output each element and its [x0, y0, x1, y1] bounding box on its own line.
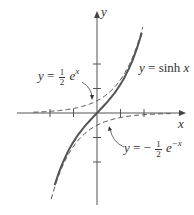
y-axis-label: y — [101, 5, 107, 18]
neg-half-exp-label: y = − 12 e−x — [124, 139, 182, 159]
fraction-one-half: 12 — [155, 140, 162, 159]
arrowhead-icon — [108, 126, 112, 131]
x-axis-label: x — [178, 117, 184, 130]
sinh-label: y = sinh x — [139, 61, 189, 74]
fraction-one-half: 12 — [59, 68, 66, 87]
sinh-plot — [0, 0, 194, 215]
half-exp-label: y = 12 ex — [38, 67, 79, 87]
arrowhead-icon — [90, 95, 94, 100]
annotation-arrow-icon — [110, 128, 124, 147]
y-axis-arrow-icon — [94, 11, 100, 18]
